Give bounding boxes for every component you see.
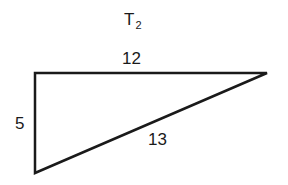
title-main: T (124, 10, 134, 29)
side-label-left: 5 (15, 115, 24, 132)
right-triangle (35, 73, 267, 173)
side-label-hypotenuse: 13 (148, 131, 167, 148)
triangle-figure: T2 12 5 13 (0, 0, 288, 185)
triangle-svg (0, 0, 288, 185)
triangle-title: T2 (124, 11, 142, 31)
side-label-top: 12 (122, 50, 141, 67)
title-subscript: 2 (135, 19, 141, 31)
